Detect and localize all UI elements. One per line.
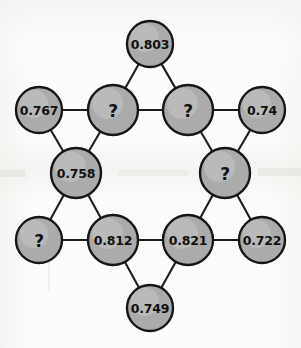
graph-node-top[interactable]: 0.803: [127, 21, 173, 67]
graph-node-bottom[interactable]: 0.749: [127, 285, 173, 331]
graph-edge: [200, 130, 213, 152]
graph-edge: [88, 130, 101, 152]
node-value-label: 0.821: [169, 233, 208, 248]
node-unknown-label: ?: [108, 101, 118, 121]
graph-node-lower-mid-r[interactable]: 0.821: [163, 215, 213, 265]
graph-edge: [199, 194, 213, 220]
graph-node-upper-right[interactable]: 0.74: [239, 87, 285, 133]
graph-node-upper-mid-l[interactable]: ?: [88, 85, 138, 135]
node-value-label: 0.803: [131, 37, 170, 52]
graph-node-lower-mid-l[interactable]: 0.812: [88, 215, 138, 265]
graph-edge: [49, 194, 64, 222]
graph-edge: [50, 129, 64, 153]
node-value-label: 0.812: [94, 233, 133, 248]
node-value-label: 0.758: [57, 166, 96, 181]
graph-edge: [236, 194, 251, 222]
node-value-label: 0.74: [247, 103, 278, 118]
node-value-label: 0.749: [131, 301, 170, 316]
graph-node-upper-left[interactable]: 0.767: [16, 87, 62, 133]
graph-node-mid-left[interactable]: 0.758: [51, 148, 101, 198]
paper-sheet: 0.8030.767??0.740.758??0.8120.8210.7220.…: [0, 0, 301, 348]
node-unknown-label: ?: [220, 164, 230, 184]
node-unknown-label: ?: [34, 231, 44, 251]
graph-node-mid-right[interactable]: ?: [200, 148, 250, 198]
graph-edge: [237, 129, 251, 153]
graph-edge: [87, 194, 101, 220]
graph-node-lower-left[interactable]: ?: [16, 217, 62, 263]
node-value-label: 0.722: [243, 233, 282, 248]
graph-edge: [124, 261, 139, 289]
graph-edge: [160, 261, 176, 290]
graph-node-lower-right[interactable]: 0.722: [239, 217, 285, 263]
graph-node-upper-mid-r[interactable]: ?: [163, 85, 213, 135]
node-value-label: 0.767: [20, 103, 59, 118]
graph-edge: [161, 63, 177, 90]
node-unknown-label: ?: [183, 101, 193, 121]
nodes-layer: 0.8030.767??0.740.758??0.8120.8210.7220.…: [16, 21, 285, 331]
star-graph: 0.8030.767??0.740.758??0.8120.8210.7220.…: [0, 0, 301, 348]
graph-edge: [124, 63, 139, 90]
